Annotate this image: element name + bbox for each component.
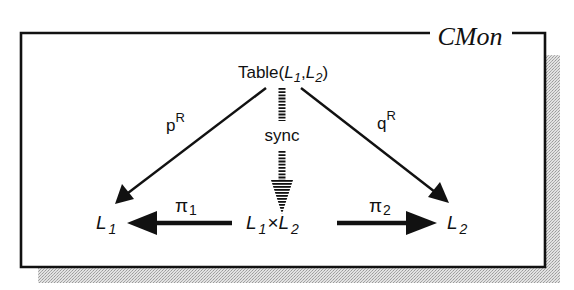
node-table: Table(L1,L2) bbox=[238, 63, 328, 85]
cmon-diagram: CMon Table(L1,L2) pR qR sync L1 L1×L2 L2 bbox=[0, 0, 574, 290]
frame-title: CMon bbox=[438, 22, 503, 51]
edge-label-sync: sync bbox=[265, 126, 300, 145]
